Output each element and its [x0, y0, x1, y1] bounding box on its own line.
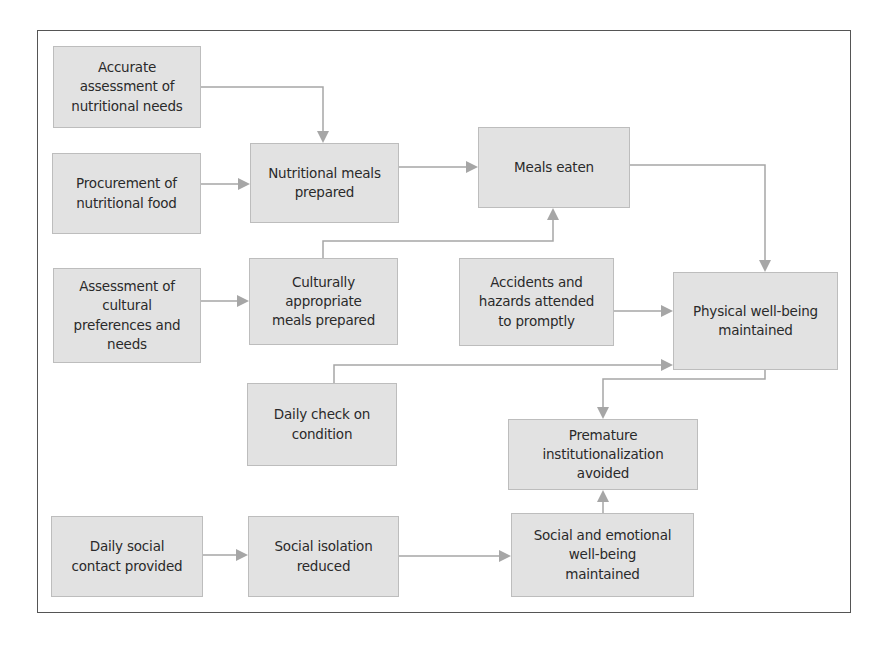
node-social-isolation: Social isolation reduced — [248, 516, 399, 597]
node-accurate-assessment: Accurate assessment of nutritional needs — [53, 46, 201, 128]
node-premature-institutionalization: Premature institutionalization avoided — [508, 419, 698, 490]
node-accidents-hazards: Accidents and hazards attended to prompt… — [459, 258, 614, 346]
node-culturally-appropriate: Culturally appropriate meals prepared — [249, 258, 398, 345]
node-meals-eaten: Meals eaten — [478, 127, 630, 208]
node-procurement: Procurement of nutritional food — [52, 153, 201, 234]
node-daily-check: Daily check on condition — [247, 383, 397, 466]
node-daily-social-contact: Daily social contact provided — [51, 516, 203, 597]
node-assessment-cultural: Assessment of cultural preferences and n… — [53, 268, 201, 363]
node-social-emotional: Social and emotional well-being maintain… — [511, 513, 694, 597]
node-physical-wellbeing: Physical well-being maintained — [673, 272, 838, 370]
node-nutritional-meals: Nutritional meals prepared — [250, 143, 399, 223]
